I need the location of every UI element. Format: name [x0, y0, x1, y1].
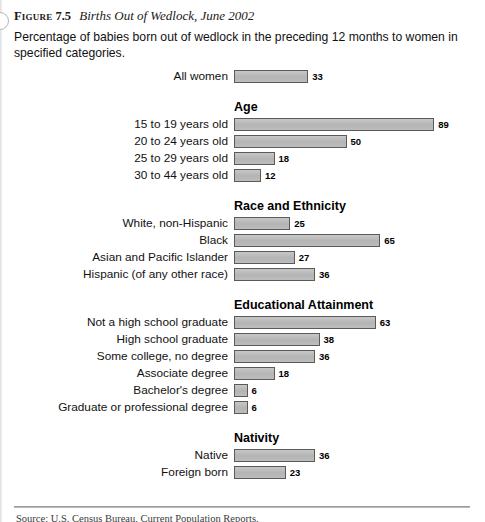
chart-row: Not a high school graduate63: [0, 314, 485, 331]
group-spacer: [0, 283, 485, 297]
bar-value-label: 50: [347, 135, 362, 148]
bar-value-label: 36: [315, 268, 330, 281]
bar-value-label: 6: [248, 384, 257, 397]
bar-value-label: 6: [248, 401, 257, 414]
chart-row: Hispanic (of any other race)36: [0, 266, 485, 283]
figure-sheet: Figure 7.5 Births Out of Wedlock, June 2…: [0, 0, 485, 522]
bar-container: 33: [234, 70, 323, 83]
bar: [234, 268, 315, 281]
footer-divider: [14, 506, 470, 508]
chart-row: Associate degree18: [0, 365, 485, 382]
chart-group-age: Age15 to 19 years old8920 to 24 years ol…: [0, 99, 485, 184]
chart-row: Native36: [0, 447, 485, 464]
row-label: Associate degree: [0, 365, 228, 382]
bar-value-label: 25: [290, 217, 305, 230]
row-label: High school graduate: [0, 331, 228, 348]
bar: [234, 169, 261, 182]
bar-container: 23: [234, 466, 300, 479]
row-label: Black: [0, 232, 228, 249]
bar: [234, 135, 347, 148]
bar-container: 18: [234, 152, 289, 165]
group-heading: Age: [234, 99, 485, 116]
bar: [234, 333, 320, 346]
bar-value-label: 65: [380, 234, 395, 247]
bar-value-label: 36: [315, 449, 330, 462]
row-label: White, non-Hispanic: [0, 215, 228, 232]
bar-container: 18: [234, 367, 289, 380]
chart-row: Some college, no degree36: [0, 348, 485, 365]
chart-group-educational-attainment: Educational AttainmentNot a high school …: [0, 297, 485, 416]
bar-value-label: 23: [286, 466, 301, 479]
bar: [234, 384, 248, 397]
chart-row: 25 to 29 years old18: [0, 150, 485, 167]
figure-subtitle: Percentage of babies born out of wedlock…: [14, 30, 464, 61]
bar: [234, 316, 376, 329]
source-note: Source: U.S. Census Bureau, Current Popu…: [16, 513, 471, 522]
group-heading: Race and Ethnicity: [234, 198, 485, 215]
bar-container: 36: [234, 268, 330, 281]
row-label: 25 to 29 years old: [0, 150, 228, 167]
group-spacer: [0, 416, 485, 430]
bar-value-label: 18: [275, 367, 290, 380]
bar-value-label: 33: [308, 70, 323, 83]
bar-value-label: 27: [295, 251, 310, 264]
chart-group-race-and-ethnicity: Race and EthnicityWhite, non-Hispanic25B…: [0, 198, 485, 283]
row-label: 20 to 24 years old: [0, 133, 228, 150]
row-label: All women: [0, 68, 228, 85]
bar: [234, 401, 248, 414]
group-heading: Educational Attainment: [234, 297, 485, 314]
chart-row: 15 to 19 years old89: [0, 116, 485, 133]
bar: [234, 217, 290, 230]
bar: [234, 118, 434, 131]
bar-value-label: 89: [434, 118, 449, 131]
bar-container: 89: [234, 118, 449, 131]
figure-label: Figure: [14, 9, 52, 23]
bar: [234, 466, 286, 479]
bar-container: 65: [234, 234, 395, 247]
bar-container: 36: [234, 449, 330, 462]
row-label: Hispanic (of any other race): [0, 266, 228, 283]
chart-row: High school graduate38: [0, 331, 485, 348]
chart-row: White, non-Hispanic25: [0, 215, 485, 232]
bar-value-label: 12: [261, 169, 276, 182]
bar: [234, 234, 380, 247]
bar-container: 6: [234, 401, 257, 414]
chart-row: Foreign born23: [0, 464, 485, 481]
bar: [234, 251, 295, 264]
bar-container: 12: [234, 169, 276, 182]
group-spacer: [0, 184, 485, 198]
row-label: Native: [0, 447, 228, 464]
chart-row: All women33: [0, 68, 485, 85]
row-label: Asian and Pacific Islander: [0, 249, 228, 266]
chart-row: Asian and Pacific Islander27: [0, 249, 485, 266]
figure-number: 7.5: [55, 9, 71, 23]
bar: [234, 152, 275, 165]
bar: [234, 367, 275, 380]
bar: [234, 350, 315, 363]
figure-title: Births Out of Wedlock, June 2002: [74, 8, 254, 23]
chart-group-nativity: NativityNative36Foreign born23: [0, 430, 485, 481]
group-spacer: [0, 85, 485, 99]
row-label: 15 to 19 years old: [0, 116, 228, 133]
bar-container: 36: [234, 350, 330, 363]
bar-container: 25: [234, 217, 305, 230]
chart-row: 20 to 24 years old50: [0, 133, 485, 150]
row-label: Some college, no degree: [0, 348, 228, 365]
row-label: 30 to 44 years old: [0, 167, 228, 184]
bar-container: 38: [234, 333, 334, 346]
bar: [234, 449, 315, 462]
chart-row: 30 to 44 years old12: [0, 167, 485, 184]
chart-row: Bachelor's degree6: [0, 382, 485, 399]
row-label: Graduate or professional degree: [0, 399, 228, 416]
chart-group: All women33: [0, 68, 485, 85]
bar: [234, 70, 308, 83]
bar-container: 6: [234, 384, 257, 397]
bar-value-label: 63: [376, 316, 391, 329]
bar-container: 63: [234, 316, 390, 329]
horizontal-bar-chart: All women33Age15 to 19 years old8920 to …: [0, 68, 485, 481]
bar-container: 27: [234, 251, 309, 264]
bar-value-label: 18: [275, 152, 290, 165]
chart-row: Graduate or professional degree6: [0, 399, 485, 416]
figure-caption: Figure 7.5 Births Out of Wedlock, June 2…: [14, 8, 474, 24]
row-label: Foreign born: [0, 464, 228, 481]
